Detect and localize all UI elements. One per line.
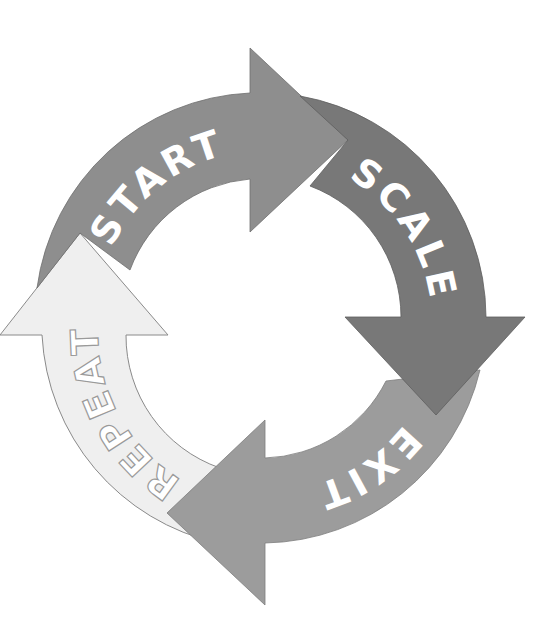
cycle-diagram: REPEAT START EXIT SCALE bbox=[0, 0, 539, 644]
